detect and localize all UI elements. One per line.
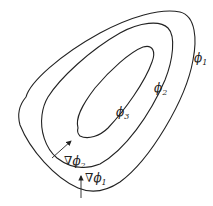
label-phi3: ϕ3 (116, 105, 129, 121)
contour-phi1 (19, 11, 195, 191)
contour-phi3 (77, 46, 153, 137)
label-grad-phi1: ∇ϕ1 (85, 171, 107, 187)
diagram-canvas: ϕ1 ϕ2 ϕ3 ∇ϕ2 ∇ϕ1 (0, 0, 213, 206)
level-set-diagram: ϕ1 ϕ2 ϕ3 ∇ϕ2 ∇ϕ1 (0, 0, 213, 206)
label-phi1: ϕ1 (194, 51, 207, 67)
label-phi2: ϕ2 (154, 81, 167, 97)
label-grad-phi2: ∇ϕ2 (64, 154, 86, 170)
